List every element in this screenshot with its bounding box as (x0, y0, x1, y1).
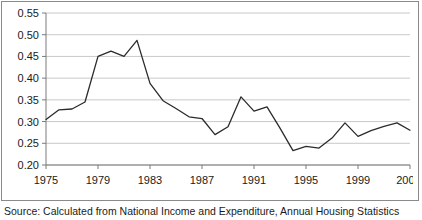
x-axis-tick-labels: 19751979198319871991199519992003f (34, 174, 413, 186)
axis-lines (46, 13, 410, 165)
figure-container: 0.200.250.300.350.400.450.500.55 1975197… (0, 0, 422, 220)
y-tick-label: 0.45 (18, 50, 39, 62)
y-axis-tick-labels: 0.200.250.300.350.400.450.500.55 (18, 7, 46, 171)
y-tick-label: 0.25 (18, 137, 39, 149)
y-tick-label: 0.35 (18, 94, 39, 106)
y-tick-label: 0.55 (18, 7, 39, 19)
line-chart: 0.200.250.300.350.400.450.500.55 1975197… (7, 7, 413, 195)
x-axis-tick-marks (46, 165, 410, 169)
y-tick-label: 0.50 (18, 29, 39, 41)
y-tick-label: 0.20 (18, 159, 39, 171)
y-tick-label: 0.30 (18, 116, 39, 128)
x-tick-label: 1975 (34, 174, 58, 186)
x-tick-label: 1983 (138, 174, 162, 186)
x-tick-label: 1987 (190, 174, 214, 186)
x-tick-label: 1991 (242, 174, 266, 186)
chart-svg: 0.200.250.300.350.400.450.500.55 1975197… (7, 7, 413, 195)
x-tick-label: 2003f (396, 174, 413, 186)
source-caption: Source: Calculated from National Income … (4, 205, 418, 217)
gridlines-group (46, 13, 410, 165)
x-tick-label: 1995 (294, 174, 318, 186)
x-tick-label: 1999 (346, 174, 370, 186)
y-tick-label: 0.40 (18, 72, 39, 84)
x-tick-label: 1979 (86, 174, 110, 186)
